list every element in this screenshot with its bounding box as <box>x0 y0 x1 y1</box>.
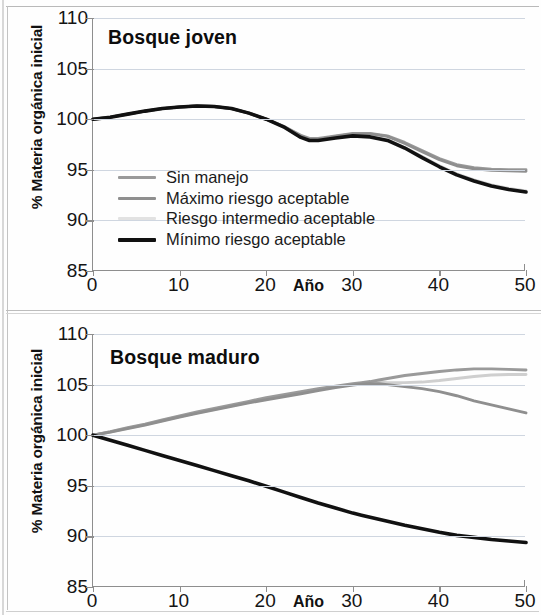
gridline <box>93 119 525 120</box>
y-axis-tick-label: 90 <box>26 526 88 545</box>
x-axis-tick-label: 10 <box>154 590 204 612</box>
gridline <box>93 486 525 487</box>
legend-label: Sin manejo <box>166 167 249 188</box>
legend-swatch-line-icon <box>118 238 156 242</box>
x-axis-tick-label: 40 <box>413 590 463 612</box>
plot-area <box>92 334 525 587</box>
y-axis-tick-labels: 859095100105110 <box>26 0 88 308</box>
y-axis-tick-label: 100 <box>26 109 88 128</box>
gridline <box>93 435 525 436</box>
x-axis-tick-label: 50 <box>500 274 541 296</box>
x-axis-tick-label: 40 <box>413 274 463 296</box>
y-axis-tick <box>86 435 94 436</box>
y-axis-tick <box>86 385 94 386</box>
y-axis-tick <box>86 170 94 171</box>
x-axis-tick-label: 50 <box>500 590 541 612</box>
y-axis-tick-label: 110 <box>26 8 88 27</box>
series-line <box>93 384 526 436</box>
gridline <box>93 334 525 335</box>
y-axis-tick <box>86 220 94 221</box>
x-axis-line <box>93 270 525 271</box>
legend-swatch-line-icon <box>118 217 156 220</box>
gridline <box>93 18 525 19</box>
y-axis-tick-label: 100 <box>26 425 88 444</box>
chart-panel-bosque-maduro: % Materia orgánica inicial 8590951001051… <box>0 312 541 615</box>
panel-title: Bosque maduro <box>110 346 260 369</box>
y-axis-tick-label: 105 <box>26 375 88 394</box>
y-axis-tick-label: 105 <box>26 59 88 78</box>
x-axis-tick-label: 0 <box>67 274 117 296</box>
legend-swatch-line-icon <box>118 176 156 179</box>
y-axis-tick-label: 95 <box>26 476 88 495</box>
x-axis-tick-labels: 01020304050Año <box>92 274 525 304</box>
gridline <box>93 385 525 386</box>
figure-page: % Materia orgánica inicial 8590951001051… <box>0 0 541 615</box>
series-line <box>93 374 526 435</box>
series-line <box>93 435 526 542</box>
y-axis-tick-label: 110 <box>26 324 88 343</box>
legend-label: Mínimo riesgo aceptable <box>166 229 346 250</box>
x-axis-title: Año <box>279 275 339 297</box>
panel-divider <box>6 310 541 311</box>
y-axis-tick-labels: 859095100105110 <box>26 312 88 615</box>
chart-panel-bosque-joven: % Materia orgánica inicial 8590951001051… <box>0 0 541 308</box>
legend-label: Máximo riesgo aceptable <box>166 188 349 209</box>
y-axis-tick-label: 90 <box>26 210 88 229</box>
x-axis-tick-labels: 01020304050Año <box>92 590 525 615</box>
x-axis-tick-label: 0 <box>67 590 117 612</box>
panel-title: Bosque joven <box>108 26 237 49</box>
y-axis-tick <box>86 334 94 335</box>
y-axis-tick <box>86 486 94 487</box>
x-axis-end-cap <box>524 580 525 587</box>
x-axis-end-cap <box>524 264 525 271</box>
x-axis-line <box>93 586 525 587</box>
legend-swatch-line-icon <box>118 197 156 200</box>
y-axis-tick <box>86 18 94 19</box>
series-lines <box>93 334 526 587</box>
y-axis-tick <box>86 69 94 70</box>
y-axis-tick <box>86 536 94 537</box>
y-axis-tick-label: 95 <box>26 160 88 179</box>
gridline <box>93 170 525 171</box>
gridline <box>93 536 525 537</box>
y-axis-tick <box>86 119 94 120</box>
gridline <box>93 69 525 70</box>
x-axis-title: Año <box>279 591 339 613</box>
legend-label: Riesgo intermedio aceptable <box>166 208 375 229</box>
x-axis-tick-label: 10 <box>154 274 204 296</box>
